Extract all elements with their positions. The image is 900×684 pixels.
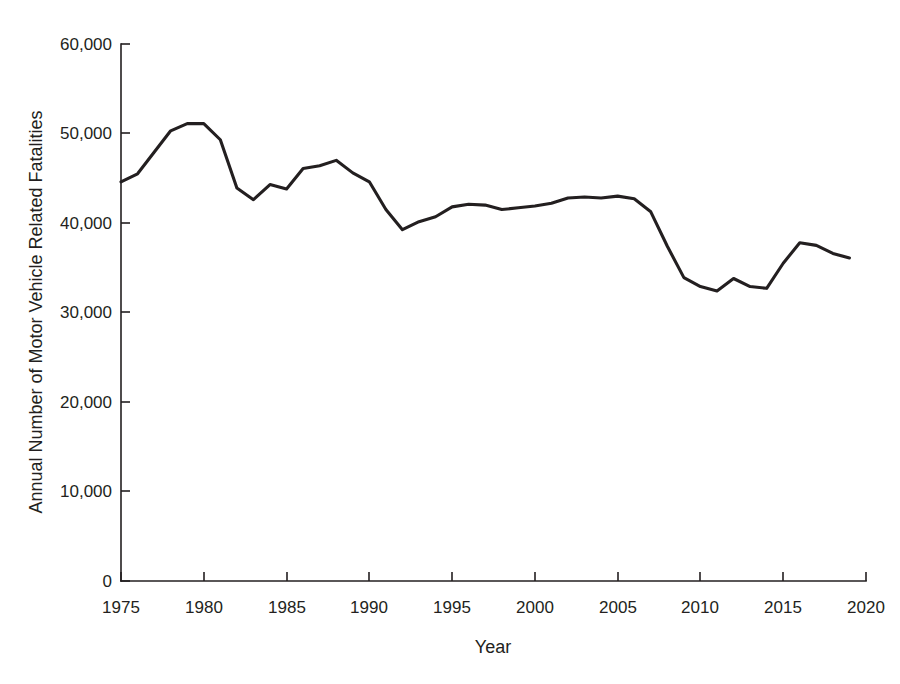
y-tick-label: 0 xyxy=(103,572,112,591)
x-axis-ticks xyxy=(121,572,866,581)
y-axis-tick-labels: 0 10,000 20,000 30,000 40,000 50,000 60,… xyxy=(60,35,112,591)
y-tick-label: 40,000 xyxy=(60,214,112,233)
y-tick-label: 10,000 xyxy=(60,482,112,501)
x-tick-label: 2015 xyxy=(764,598,802,617)
y-tick-label: 60,000 xyxy=(60,35,112,54)
line-chart: Annual Number of Motor Vehicle Related F… xyxy=(0,0,900,684)
y-axis-title: Annual Number of Motor Vehicle Related F… xyxy=(26,110,46,513)
y-tick-label: 50,000 xyxy=(60,124,112,143)
x-tick-label: 2020 xyxy=(847,598,885,617)
x-tick-label: 2005 xyxy=(599,598,637,617)
y-tick-label: 20,000 xyxy=(60,393,112,412)
y-axis-ticks xyxy=(121,44,130,581)
data-series-line xyxy=(121,124,849,291)
x-axis-tick-labels: 1975 1980 1985 1990 1995 2000 2005 2010 … xyxy=(102,598,885,617)
x-tick-label: 1975 xyxy=(102,598,140,617)
x-tick-label: 2000 xyxy=(516,598,554,617)
x-axis-title: Year xyxy=(475,637,511,657)
x-tick-label: 1990 xyxy=(350,598,388,617)
y-tick-label: 30,000 xyxy=(60,303,112,322)
x-tick-label: 1985 xyxy=(268,598,306,617)
x-tick-label: 1980 xyxy=(185,598,223,617)
x-tick-label: 1995 xyxy=(433,598,471,617)
chart-container: Annual Number of Motor Vehicle Related F… xyxy=(0,0,900,684)
x-tick-label: 2010 xyxy=(681,598,719,617)
